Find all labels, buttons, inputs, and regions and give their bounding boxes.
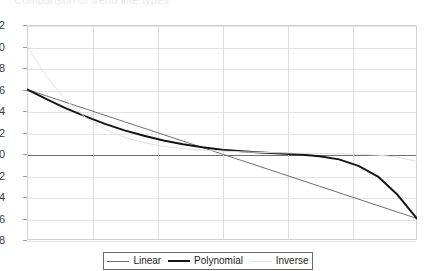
y-axis-tick-mark: [23, 47, 27, 48]
y-axis-tick-label: -6: [0, 214, 5, 224]
y-axis-tick-label: -2: [0, 171, 5, 181]
y-axis-tick-label: 6: [0, 85, 5, 95]
y-axis-tick-label: 8: [0, 63, 5, 73]
series-layer: [27, 25, 417, 240]
legend-item-polynomial[interactable]: Polynomial: [168, 256, 243, 266]
y-axis-tick-mark: [23, 111, 27, 112]
legend-item-inverse[interactable]: Inverse: [250, 256, 309, 266]
chart-title: Comparison of trend line types: [14, 0, 169, 6]
chart-title-strip: Comparison of trend line types: [0, 0, 429, 11]
y-axis-tick-mark: [23, 219, 27, 220]
y-axis-tick-mark: [23, 240, 27, 241]
y-axis-tick-mark: [23, 90, 27, 91]
y-axis-tick-label: -8: [0, 235, 5, 245]
legend-label: Inverse: [276, 256, 309, 266]
y-axis-tick-mark: [23, 25, 27, 26]
y-axis-tick-label: 2: [0, 128, 5, 138]
y-axis-tick-mark: [23, 197, 27, 198]
chart-legend: LinearPolynomialInverse: [103, 252, 313, 270]
y-axis-tick-mark: [23, 68, 27, 69]
y-axis-tick-mark: [23, 133, 27, 134]
y-axis-tick-label: 10: [0, 42, 5, 52]
inverse-line-swatch: [250, 261, 272, 262]
y-axis-tick-mark: [23, 176, 27, 177]
series-line-inverse: [27, 47, 417, 162]
y-axis-tick-label: 4: [0, 106, 5, 116]
linear-line-swatch: [107, 261, 129, 262]
y-axis-tick-label: -4: [0, 192, 5, 202]
chart-container: Comparison of trend line types LinearPol…: [0, 0, 429, 271]
legend-label: Polynomial: [194, 256, 243, 266]
y-axis-tick-mark: [23, 154, 27, 155]
legend-item-linear[interactable]: Linear: [107, 256, 161, 266]
y-axis-tick-label: 12: [0, 20, 5, 30]
y-axis-tick-label: 0: [0, 149, 5, 159]
poly-line-swatch: [168, 260, 190, 262]
gridline-horizontal: [28, 241, 416, 242]
legend-label: Linear: [133, 256, 161, 266]
